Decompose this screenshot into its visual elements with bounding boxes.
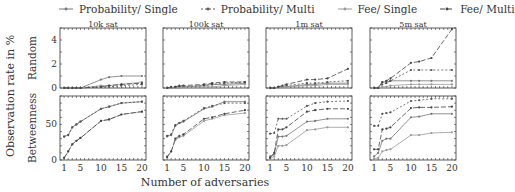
data-point [166, 87, 168, 89]
data-point [385, 138, 387, 140]
data-point [389, 148, 391, 150]
data-point [347, 80, 349, 82]
data-point [281, 118, 283, 120]
x-tick-label: 5 [181, 163, 187, 173]
y-axis-label-outer: Observation rate in % [4, 35, 17, 157]
data-point [120, 83, 122, 85]
data-point [326, 83, 328, 85]
data-point [277, 128, 279, 130]
data-point [418, 106, 420, 108]
data-point [418, 134, 420, 136]
x-tick-label: 10 [95, 163, 107, 173]
row-label-betweenness: Betweenness [26, 93, 38, 163]
data-point [182, 120, 184, 122]
x-axis-label: Number of adversaries [141, 176, 270, 189]
data-point [430, 83, 432, 85]
data-point [182, 133, 184, 135]
data-point [79, 137, 81, 139]
x-tick-label: 20 [239, 163, 251, 173]
data-point [306, 129, 308, 131]
panel-1-1: 15101520 [163, 96, 251, 173]
data-point [347, 108, 349, 110]
series-line [270, 109, 348, 158]
panel-1-0: 05015101520 [46, 96, 148, 173]
data-point [377, 87, 379, 89]
data-point [306, 121, 308, 123]
data-point [306, 111, 308, 113]
data-point [347, 118, 349, 120]
data-point [75, 87, 77, 89]
panel-0-1: 100k sat [163, 20, 249, 90]
data-point [63, 157, 65, 159]
data-point [100, 108, 102, 110]
data-point [244, 102, 246, 104]
data-point [314, 85, 316, 87]
data-point [67, 150, 69, 152]
x-tick-label: 10 [198, 163, 210, 173]
data-point [174, 124, 176, 126]
data-point [244, 81, 246, 83]
data-point [377, 152, 379, 154]
data-point [451, 69, 453, 71]
y-tick-label: 0 [51, 83, 57, 93]
data-point [418, 69, 420, 71]
data-point [377, 157, 379, 159]
x-tick-label: 1 [267, 163, 273, 173]
data-point [389, 138, 391, 140]
data-point [223, 113, 225, 115]
data-point [451, 83, 453, 85]
data-point [377, 148, 379, 150]
data-point [389, 77, 391, 79]
y-tick-label: 50 [46, 119, 58, 129]
data-point [389, 111, 391, 113]
x-tick-label: 20 [136, 163, 148, 173]
data-point [285, 126, 287, 128]
data-point [385, 82, 387, 84]
data-point [285, 118, 287, 120]
data-point [108, 76, 110, 78]
data-point [170, 86, 172, 88]
data-point [430, 69, 432, 71]
series-line [64, 112, 142, 158]
data-point [314, 128, 316, 130]
data-point [281, 145, 283, 147]
data-point [430, 132, 432, 134]
y-tick-label: 4 [51, 35, 57, 45]
data-point [381, 128, 383, 130]
data-point [277, 145, 279, 147]
x-tick-label: 20 [342, 163, 354, 173]
data-point [418, 116, 420, 118]
data-point [203, 83, 205, 85]
data-point [203, 120, 205, 122]
data-point [410, 107, 412, 109]
data-point [314, 109, 316, 111]
series-line [270, 127, 348, 158]
x-tick-label: 10 [405, 163, 417, 173]
series-line [374, 29, 452, 88]
data-point [178, 122, 180, 124]
x-tick-label: 10 [301, 163, 313, 173]
data-point [418, 80, 420, 82]
data-point [410, 83, 412, 85]
data-point [75, 123, 77, 125]
series-line [167, 110, 245, 157]
panel-1-2: 15101520 [266, 96, 354, 173]
data-point [211, 86, 213, 88]
data-point [178, 87, 180, 89]
data-point [108, 85, 110, 87]
series-line [270, 119, 348, 157]
data-point [67, 87, 69, 89]
data-point [273, 132, 275, 134]
series-line [64, 112, 142, 158]
data-point [385, 80, 387, 82]
data-point [203, 86, 205, 88]
data-point [211, 82, 213, 84]
data-point [141, 75, 143, 77]
data-point [170, 133, 172, 135]
data-point [418, 83, 420, 85]
data-point [306, 82, 308, 84]
data-point [71, 87, 73, 89]
data-point [381, 150, 383, 152]
series-line [374, 132, 452, 158]
data-point [385, 149, 387, 151]
